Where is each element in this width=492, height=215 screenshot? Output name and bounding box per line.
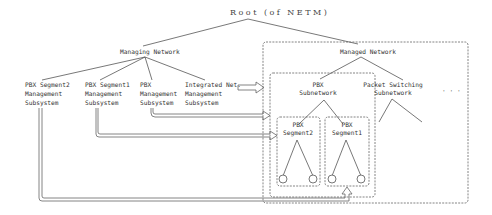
edge-managing-pbx — [145, 57, 152, 80]
edge-managing-pbxseg2 — [42, 57, 145, 80]
node-label-line: Subsystem — [140, 99, 174, 107]
arrow-pbxseg1-mgmt-to-segment2 — [96, 108, 277, 140]
more-subnetworks-ellipsis: · · · — [442, 87, 461, 94]
diagram-svg: Root (of NETM) Managing Network PBX Segm… — [0, 0, 492, 215]
node-label-line: Subsystem — [85, 99, 119, 107]
edge-packet-right — [392, 99, 422, 122]
seg1-node-left — [328, 175, 336, 183]
managed-network-label: Managed Network — [340, 48, 396, 56]
node-label-line: Management — [25, 90, 63, 98]
edge-managing-pbxseg1 — [100, 57, 145, 80]
node-label-line: Integrated Net. — [185, 81, 241, 89]
node-label-line: Management — [185, 90, 223, 98]
pbx-subnetwork-label-1: PBX — [312, 81, 323, 88]
node-label-line: Management — [140, 90, 178, 98]
node-label-line: Management — [85, 90, 123, 98]
packet-switching-label-1: Packet Switching — [363, 81, 423, 89]
edge-seg1-right — [346, 140, 361, 176]
pbx-segment2-label-1: PBX — [292, 121, 303, 128]
edge-managing-integrated — [145, 57, 205, 80]
seg1-node-right — [357, 175, 365, 183]
edge-seg2-right — [297, 140, 313, 176]
managing-network-label: Managing Network — [120, 48, 180, 56]
netm-hierarchy-diagram: Root (of NETM) Managing Network PBX Segm… — [0, 0, 492, 215]
edge-managed-pbxsub — [320, 57, 361, 79]
node-label-line: Subsystem — [185, 99, 219, 107]
root-label: Root (of NETM) — [230, 8, 329, 17]
pbx-segment1-label-1: PBX — [341, 121, 352, 128]
packet-switching-label-2: Subnetwork — [374, 89, 412, 96]
pbx-segment1-label-2: Segment1 — [332, 129, 362, 137]
node-pbx-segment2-management: PBX Segment2 Management Subsystem — [25, 81, 70, 107]
edge-root-managing — [143, 19, 248, 46]
node-pbx-segment1-management: PBX Segment1 Management Subsystem — [85, 81, 130, 107]
node-label-line: PBX Segment2 — [25, 81, 70, 89]
arrow-integrated-to-managed — [238, 82, 264, 93]
edge-root-managed — [248, 19, 358, 44]
seg2-node-left — [279, 175, 287, 183]
edge-managed-packet — [361, 57, 403, 80]
seg2-node-right — [309, 175, 317, 183]
pbx-segment2-label-2: Segment2 — [283, 129, 313, 137]
pbx-subnetwork-label-2: Subnetwork — [299, 89, 337, 96]
node-pbx-management: PBX Management Subsystem — [140, 81, 178, 107]
node-label-line: PBX — [140, 81, 151, 88]
node-integrated-management: Integrated Net. Management Subsystem — [185, 81, 241, 107]
edge-packet-left — [379, 99, 392, 122]
node-label-line: Subsystem — [25, 99, 59, 107]
edge-pbxsub-seg1 — [324, 100, 343, 124]
node-label-line: PBX Segment1 — [85, 81, 130, 89]
arrow-pbxseg2-mgmt-to-segment1 — [39, 108, 352, 201]
edge-seg2-left — [283, 140, 297, 176]
edge-seg1-left — [332, 140, 346, 176]
arrow-pbx-mgmt-to-pbx-subnetwork — [151, 108, 270, 120]
